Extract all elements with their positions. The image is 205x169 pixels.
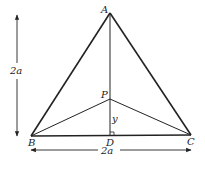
triangle-diagram: 2a 2a A B C D P y: [0, 0, 205, 169]
point-p-label: P: [100, 89, 108, 100]
point-a-label: A: [100, 4, 108, 15]
side-bc: [31, 135, 191, 136]
point-d-label: D: [105, 137, 114, 148]
height-label: 2a: [9, 65, 22, 76]
point-b-label: B: [27, 137, 35, 148]
segment-pd-label: y: [111, 113, 118, 124]
point-c-label: C: [187, 136, 195, 147]
